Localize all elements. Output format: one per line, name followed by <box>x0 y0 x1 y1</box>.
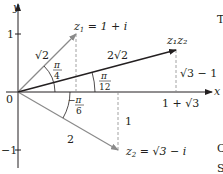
z2-dashed-height-label: 1 <box>125 115 132 128</box>
z1z2-angle-arc <box>92 72 95 92</box>
origin-label: 0 <box>6 93 13 106</box>
z1z2-x-value-label: 1 + √3 <box>162 97 199 110</box>
edge-text-2: C <box>217 142 223 155</box>
z2-modulus: 2 <box>67 133 74 146</box>
z1-angle-numerator: π <box>53 60 61 70</box>
complex-multiplication-diagram: x y 0 1 −1 z1 = 1 + i √2 π 4 z₁z₂ 2√2 π … <box>0 0 223 174</box>
z1z2-angle-denominator: 12 <box>99 82 110 92</box>
z1-modulus: √2 <box>35 49 49 62</box>
z1-label: z1 = 1 + i <box>73 20 127 34</box>
z1-vector <box>18 34 76 92</box>
z1z2-label: z₁z₂ <box>166 34 187 47</box>
y-axis-label: y <box>12 1 20 14</box>
edge-text-3: S <box>217 162 223 174</box>
z2-label: z2 = √3 − i <box>125 145 186 159</box>
z1z2-angle-numerator: π <box>100 71 108 81</box>
z2-angle-denominator: 6 <box>76 106 82 116</box>
z1z2-modulus: 2√2 <box>107 49 128 62</box>
z1z2-dashed-height-label: √3 − 1 <box>180 67 217 80</box>
y-tick-pos-label: 1 <box>7 28 14 41</box>
z1-angle-denominator: 4 <box>54 71 60 81</box>
edge-text-1: T <box>217 13 223 26</box>
z2-angle-numerator: −π <box>68 95 83 105</box>
x-axis-label: x <box>214 85 221 98</box>
y-tick-neg-label: −1 <box>1 144 17 157</box>
